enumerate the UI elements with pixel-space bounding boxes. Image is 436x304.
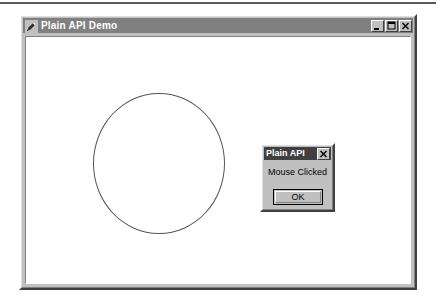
close-button[interactable] xyxy=(399,20,412,32)
message-dialog: Plain API Mouse Clicked OK xyxy=(260,143,335,212)
dialog-message-text: Mouse Clicked xyxy=(262,167,333,178)
window-title: Plain API Demo xyxy=(41,20,370,32)
page-divider-rule xyxy=(0,2,436,4)
ok-button[interactable]: OK xyxy=(273,189,323,205)
drawing-canvas[interactable] xyxy=(25,36,411,284)
pen-icon[interactable] xyxy=(25,19,38,32)
ok-button-label: OK xyxy=(275,191,321,203)
dialog-close-button[interactable] xyxy=(317,148,330,160)
circle-shape xyxy=(93,93,225,234)
minimize-button[interactable] xyxy=(371,20,384,32)
application-window: Plain API Demo xyxy=(19,14,417,290)
dialog-title: Plain API xyxy=(266,148,316,159)
maximize-button[interactable] xyxy=(385,20,398,32)
window-titlebar[interactable]: Plain API Demo xyxy=(23,18,413,33)
dialog-titlebar[interactable]: Plain API xyxy=(264,147,331,160)
